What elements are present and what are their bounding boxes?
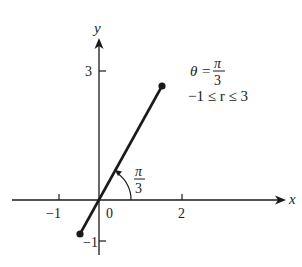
- x-tick-label-0: 0: [106, 206, 113, 221]
- polar-diagram: −1 0 2 3 −1 x y π 3 θ = π 3 −1 ≤ r ≤ 3: [0, 0, 302, 267]
- angle-arc-arrow-icon: [115, 170, 122, 176]
- polar-segment: [80, 86, 162, 234]
- angle-arc: [117, 173, 131, 200]
- angle-label-numerator: π: [135, 164, 143, 179]
- y-tick-label-3: 3: [85, 64, 92, 79]
- x-axis-label: x: [288, 191, 296, 207]
- x-tick-label-minus1: −1: [46, 206, 61, 221]
- angle-label-denominator: 3: [135, 181, 142, 196]
- y-tick-label-minus1: −1: [83, 235, 98, 250]
- equation-r-range: −1 ≤ r ≤ 3: [188, 88, 248, 104]
- segment-end-point: [158, 82, 165, 89]
- y-axis-label: y: [92, 20, 101, 36]
- segment-start-point: [76, 230, 83, 237]
- x-tick-label-2: 2: [178, 206, 185, 221]
- equation-theta-numerator: π: [214, 56, 222, 71]
- equation-theta-denominator: 3: [214, 73, 221, 88]
- equation-theta-lhs: θ =: [190, 63, 211, 79]
